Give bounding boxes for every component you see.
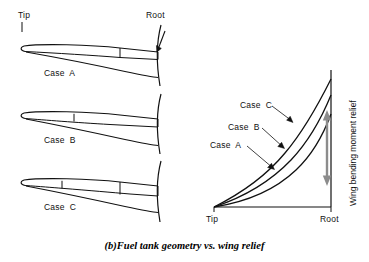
case-c-tank-lower-line-inboard bbox=[62, 188, 158, 196]
planform-root-label: Root bbox=[146, 10, 165, 20]
planform-label-case-c: Case C bbox=[44, 202, 76, 212]
chart-annotation-case-a: Case A bbox=[210, 140, 241, 150]
case-b-leading-edge bbox=[24, 112, 158, 119]
wing-planform-case-b bbox=[21, 112, 158, 146]
case-a-leading-edge bbox=[24, 45, 158, 52]
planform-label-case-b: Case B bbox=[44, 135, 76, 145]
planform-tip-label: Tip bbox=[18, 10, 30, 20]
leader-case-b bbox=[262, 128, 285, 149]
leader-case-c bbox=[272, 106, 293, 123]
chart-annotation-case-b: Case B bbox=[228, 122, 260, 132]
planform-label-case-a: Case A bbox=[44, 68, 75, 78]
figure-caption: (b)Fuel tank geometry vs. wing relief bbox=[0, 240, 369, 251]
case-c-leading-edge bbox=[24, 179, 158, 186]
relief-range-arrow bbox=[323, 110, 331, 186]
wing-planform-case-c bbox=[21, 179, 158, 213]
figure-canvas bbox=[0, 0, 369, 262]
chart-y-axis-label: Wing bending moment relief bbox=[348, 100, 358, 206]
case-c-tip-cap bbox=[21, 180, 25, 186]
chart-annotation-case-c: Case C bbox=[240, 100, 272, 110]
leader-case-a bbox=[247, 146, 275, 170]
chart-xtick-label-root: Root bbox=[320, 214, 339, 224]
case-b-tip-cap bbox=[21, 113, 25, 119]
chart-xtick-label-tip: Tip bbox=[206, 214, 218, 224]
wing-planform-case-a bbox=[21, 45, 158, 78]
case-a-tip-cap bbox=[21, 46, 25, 52]
